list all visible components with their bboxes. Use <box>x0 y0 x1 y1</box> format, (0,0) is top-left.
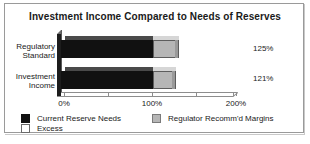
chart-screenshot: Investment Income Compared to Needs of R… <box>0 0 310 144</box>
frame-shadow-bottom <box>5 134 305 135</box>
bar-segment-current-reserve-front <box>61 71 153 89</box>
legend-label-current-reserve-needs: Current Reserve Needs <box>37 114 121 123</box>
x-tick-label-200: 200% <box>216 99 256 108</box>
chart-frame: Investment Income Compared to Needs of R… <box>4 3 304 133</box>
x-tick-0 <box>64 92 65 96</box>
x-tick-50 <box>108 92 109 96</box>
category-label-line1: Investment <box>9 72 55 81</box>
axis-floor-back-edge <box>61 92 237 93</box>
category-label-line2: Standard <box>9 51 55 60</box>
legend-swatch-excess <box>21 124 30 133</box>
legend-swatch-regulator-recommd-margins <box>152 114 161 123</box>
legend-label-excess: Excess <box>37 124 63 133</box>
bar-segment-margin-front <box>153 71 173 89</box>
bar-segment-margin-side <box>172 71 176 89</box>
category-label-line2: Income <box>9 81 55 90</box>
data-label-regulatory-standard: 125% <box>253 44 287 53</box>
x-tick-100 <box>152 92 153 96</box>
frame-shadow-right <box>304 4 305 134</box>
category-label-line1: Regulatory <box>9 42 55 51</box>
category-label-regulatory-standard: Regulatory Standard <box>9 42 55 60</box>
x-tick-label-100: 100% <box>132 99 172 108</box>
bar-segment-margin-side <box>175 40 179 58</box>
axis-floor-front-edge <box>57 96 233 97</box>
data-label-investment-income: 121% <box>253 74 287 83</box>
x-tick-150 <box>196 92 197 96</box>
legend-swatch-current-reserve-needs <box>21 114 30 123</box>
x-tick-label-0: 0% <box>44 99 84 108</box>
category-label-investment-income: Investment Income <box>9 72 55 90</box>
legend-label-regulator-recommd-margins: Regulator Recomm'd Margins <box>168 114 274 123</box>
bar-segment-margin-front <box>153 40 176 58</box>
bar-segment-current-reserve-front <box>61 40 153 58</box>
x-tick-200 <box>236 92 237 96</box>
